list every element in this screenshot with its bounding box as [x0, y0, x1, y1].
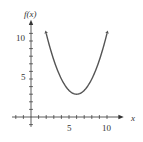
y-axis-label: f(x) — [24, 9, 37, 19]
x-axis-label: x — [130, 113, 135, 123]
y-tick-label-5: 5 — [21, 72, 26, 82]
chart: f(x) x 10 5 5 10 — [0, 0, 143, 142]
y-tick-label-10: 10 — [16, 33, 26, 43]
x-tick-label-10: 10 — [102, 123, 112, 133]
parabola-curve — [46, 33, 107, 94]
x-tick-label-5: 5 — [67, 123, 72, 133]
curve-arrows — [44, 30, 108, 33]
